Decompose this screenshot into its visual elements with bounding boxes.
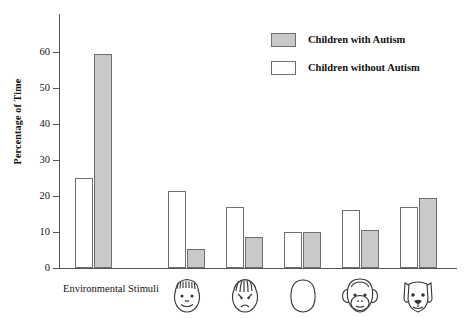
dog-face-icon	[396, 273, 440, 318]
y-tick-0	[53, 268, 60, 269]
y-tick-label-60: 60	[28, 47, 50, 57]
bar-without-autism	[400, 207, 418, 268]
bar-with-autism	[94, 54, 112, 268]
legend: Children with Autism Children without Au…	[271, 30, 420, 86]
bar-chart: Percentage of Time 60 50 40 30 20 10 0 C…	[0, 0, 471, 318]
legend-swatch-white	[271, 61, 296, 75]
happy-face-icon	[165, 273, 209, 318]
bar-with-autism	[303, 232, 321, 268]
bar-group	[226, 14, 263, 268]
bar-group	[75, 14, 112, 268]
monkey-face-icon	[338, 273, 382, 318]
y-tick-label-50: 50	[28, 83, 50, 93]
legend-swatch-gray	[271, 33, 296, 47]
y-tick-label-10: 10	[28, 227, 50, 237]
bar-with-autism	[361, 230, 379, 268]
bar-without-autism	[226, 207, 244, 268]
legend-label-without-autism: Children without Autism	[308, 62, 420, 73]
bar-without-autism	[75, 178, 93, 268]
x-axis-line	[59, 268, 457, 269]
bar-with-autism	[245, 237, 263, 268]
y-tick-label-0: 0	[28, 263, 50, 273]
y-tick-label-20: 20	[28, 191, 50, 201]
bar-without-autism	[168, 191, 186, 268]
bar-without-autism	[284, 232, 302, 268]
y-tick-label-40: 40	[28, 119, 50, 129]
sad-face-icon	[223, 273, 267, 318]
bar-with-autism	[419, 198, 437, 268]
legend-label-with-autism: Children with Autism	[308, 34, 405, 45]
blank-face-icon	[281, 273, 325, 318]
bar-without-autism	[342, 210, 360, 268]
bar-group	[168, 14, 205, 268]
legend-item-with-autism: Children with Autism	[271, 30, 420, 49]
bar-with-autism	[187, 249, 205, 268]
y-tick-label-30: 30	[28, 155, 50, 165]
legend-item-without-autism: Children without Autism	[271, 58, 420, 77]
x-label-environmental-stimuli: Environmental Stimuli	[63, 283, 159, 294]
y-axis-title: Percentage of Time	[12, 57, 23, 187]
